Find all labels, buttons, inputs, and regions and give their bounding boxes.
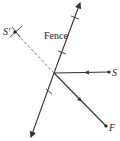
- fence-label: Fence: [44, 30, 68, 41]
- s-to-fence-segment: [54, 72, 109, 73]
- s-label: S: [112, 67, 117, 78]
- f-label: F: [108, 122, 116, 133]
- reflection-diagram: Fence S S′ F: [0, 0, 120, 141]
- f-point: [104, 124, 107, 127]
- fence-line-lower: [31, 73, 54, 137]
- s-prime-point: [13, 30, 16, 33]
- direction-arrow-icon: [84, 71, 89, 75]
- s-prime-label: S′: [3, 26, 11, 37]
- s-point: [107, 70, 110, 73]
